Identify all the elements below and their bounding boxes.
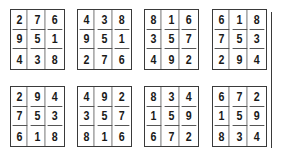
cell: 6 <box>13 126 27 146</box>
cell: 5 <box>97 30 111 50</box>
cell: 9 <box>13 30 27 50</box>
cell: 3 <box>164 87 178 107</box>
cell: 8 <box>147 87 161 107</box>
cell: 2 <box>115 87 129 107</box>
cell: 5 <box>30 107 44 127</box>
cell: 5 <box>232 30 246 50</box>
cell: 6 <box>115 49 129 69</box>
cell: 7 <box>164 126 178 146</box>
cell: 5 <box>97 107 111 127</box>
cell: 1 <box>97 126 111 146</box>
cell: 4 <box>48 87 62 107</box>
cell: 6 <box>215 87 229 107</box>
cell: 4 <box>147 49 161 69</box>
cell: 4 <box>250 126 264 146</box>
cell: 5 <box>164 107 178 127</box>
cell: 9 <box>164 49 178 69</box>
cell: 1 <box>30 126 44 146</box>
cell: 4 <box>80 10 94 30</box>
cell: 2 <box>80 49 94 69</box>
cell: 8 <box>80 126 94 146</box>
magic-square-r1-c2: 4 3 8 9 5 1 2 7 6 <box>77 9 132 70</box>
magic-square-r1-c1: 2 7 6 9 5 1 4 3 8 <box>10 9 65 70</box>
magic-square-r2-c1: 2 9 4 7 5 3 6 1 8 <box>10 86 65 147</box>
cell: 2 <box>182 49 196 69</box>
cell: 3 <box>232 126 246 146</box>
cell: 2 <box>13 10 27 30</box>
cell: 7 <box>232 87 246 107</box>
cell: 2 <box>215 49 229 69</box>
cell: 4 <box>80 87 94 107</box>
cell: 9 <box>30 87 44 107</box>
cell: 2 <box>250 87 264 107</box>
cell: 3 <box>30 49 44 69</box>
cell: 2 <box>13 87 27 107</box>
cell: 3 <box>48 107 62 127</box>
cell: 3 <box>147 30 161 50</box>
cell: 9 <box>80 30 94 50</box>
cell: 6 <box>182 10 196 30</box>
cell: 6 <box>115 126 129 146</box>
cell: 1 <box>232 10 246 30</box>
cell: 1 <box>48 30 62 50</box>
magic-square-r2-c3: 8 3 4 1 5 9 6 7 2 <box>144 86 199 147</box>
magic-square-r2-c4: 6 7 2 1 5 9 8 3 4 <box>212 86 267 147</box>
cell: 5 <box>164 30 178 50</box>
cell: 5 <box>232 107 246 127</box>
cell: 9 <box>250 107 264 127</box>
cell: 4 <box>182 87 196 107</box>
cell: 7 <box>115 107 129 127</box>
cell: 9 <box>182 107 196 127</box>
cell: 4 <box>13 49 27 69</box>
cell: 8 <box>115 10 129 30</box>
cell: 7 <box>13 107 27 127</box>
cell: 1 <box>164 10 178 30</box>
cell: 3 <box>80 107 94 127</box>
magic-square-r1-c4: 6 1 8 7 5 3 2 9 4 <box>212 9 267 70</box>
cell: 7 <box>215 30 229 50</box>
cell: 8 <box>250 10 264 30</box>
cell: 8 <box>48 49 62 69</box>
cell: 1 <box>115 30 129 50</box>
cell: 1 <box>147 107 161 127</box>
cell: 6 <box>48 10 62 30</box>
cell: 8 <box>147 10 161 30</box>
cell: 7 <box>97 49 111 69</box>
cell: 2 <box>182 126 196 146</box>
cell: 3 <box>250 30 264 50</box>
cell: 5 <box>30 30 44 50</box>
cell: 8 <box>48 126 62 146</box>
right-edge-connector-line <box>271 12 272 148</box>
cell: 4 <box>250 49 264 69</box>
cell: 9 <box>232 49 246 69</box>
cell: 7 <box>30 10 44 30</box>
cell: 6 <box>147 126 161 146</box>
cell: 6 <box>215 10 229 30</box>
cell: 9 <box>97 87 111 107</box>
cell: 7 <box>182 30 196 50</box>
magic-square-r2-c2: 4 9 2 3 5 7 8 1 6 <box>77 86 132 147</box>
magic-square-r1-c3: 8 1 6 3 5 7 4 9 2 <box>144 9 199 70</box>
cell: 3 <box>97 10 111 30</box>
cell: 8 <box>215 126 229 146</box>
cell: 1 <box>215 107 229 127</box>
